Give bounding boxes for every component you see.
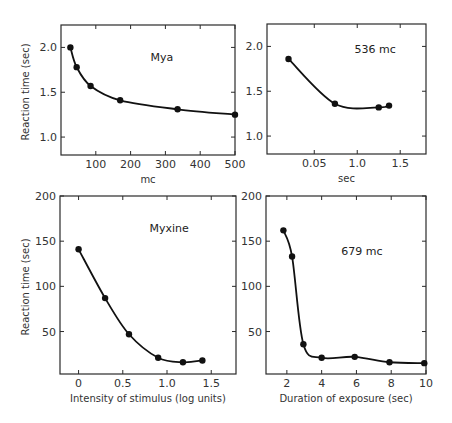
panel-annotation: 679 mc bbox=[341, 245, 382, 258]
x-tick-label: 100 bbox=[85, 158, 106, 171]
x-tick-label: 1.0 bbox=[158, 377, 176, 390]
y-tick-label: 1.5 bbox=[40, 86, 58, 99]
data-point bbox=[102, 295, 108, 301]
data-point bbox=[199, 357, 205, 363]
plot-frame bbox=[267, 24, 426, 154]
plot-frame bbox=[266, 196, 426, 374]
x-tick-label: 500 bbox=[225, 158, 246, 171]
y-tick-label: 1.0 bbox=[246, 130, 264, 143]
plot-frame bbox=[61, 25, 235, 155]
data-point bbox=[289, 253, 295, 259]
x-tick-label: 300 bbox=[155, 158, 176, 171]
y-tick-label: 150 bbox=[241, 235, 262, 248]
plot-frame bbox=[60, 196, 236, 374]
data-point bbox=[351, 354, 357, 360]
panel-myxine-intensity: 00.51.01.550100150200Intensity of stimul… bbox=[35, 190, 236, 404]
data-point bbox=[300, 341, 306, 347]
panel-mya-duration: 0.051.01.51.01.52.0sec536 mc bbox=[246, 24, 427, 184]
data-point bbox=[386, 359, 392, 365]
x-tick-label: 1.5 bbox=[202, 377, 220, 390]
panel-annotation: 536 mc bbox=[354, 43, 395, 56]
y-tick-label: 50 bbox=[248, 326, 262, 339]
x-axis-label: Intensity of stimulus (log units) bbox=[70, 393, 226, 404]
x-tick-label: 2 bbox=[283, 377, 290, 390]
x-tick-label: 200 bbox=[120, 158, 141, 171]
data-point bbox=[180, 359, 186, 365]
y-tick-label: 50 bbox=[42, 326, 56, 339]
panel-myxine-duration: 24681050100150200Duration of exposure (s… bbox=[241, 190, 433, 404]
data-point bbox=[75, 246, 81, 252]
data-point bbox=[332, 101, 338, 107]
y-tick-label: 1.5 bbox=[246, 85, 264, 98]
x-tick-label: 0.05 bbox=[302, 157, 327, 170]
y-tick-label: 200 bbox=[241, 190, 262, 203]
y-tick-label: 200 bbox=[35, 190, 56, 203]
data-point bbox=[87, 83, 93, 89]
data-point bbox=[285, 56, 291, 62]
x-tick-label: 1.5 bbox=[391, 157, 409, 170]
x-tick-label: 6 bbox=[353, 377, 360, 390]
y-tick-label: 100 bbox=[35, 280, 56, 293]
y-tick-label: 2.0 bbox=[246, 40, 264, 53]
data-point bbox=[155, 355, 161, 361]
x-tick-label: 4 bbox=[318, 377, 325, 390]
y-tick-label: 2.0 bbox=[40, 41, 58, 54]
figure: 1002003004005001.01.52.0mcMya 0.051.01.5… bbox=[0, 0, 452, 423]
data-point bbox=[174, 106, 180, 112]
x-tick-label: 0 bbox=[75, 377, 82, 390]
data-point bbox=[421, 360, 427, 366]
x-tick-label: 1.0 bbox=[348, 157, 366, 170]
data-point bbox=[280, 227, 286, 233]
panel-annotation: Myxine bbox=[149, 222, 189, 235]
data-point bbox=[67, 44, 73, 50]
data-curve bbox=[79, 249, 203, 362]
y-tick-label: 100 bbox=[241, 280, 262, 293]
data-point bbox=[386, 102, 392, 108]
data-point bbox=[232, 111, 238, 117]
x-tick-label: 8 bbox=[388, 377, 395, 390]
panel-annotation: Mya bbox=[151, 51, 174, 64]
data-point bbox=[376, 104, 382, 110]
y-axis-label-top: Reaction time (sec) bbox=[20, 43, 31, 140]
y-tick-label: 1.0 bbox=[40, 131, 58, 144]
y-tick-label: 150 bbox=[35, 235, 56, 248]
y-axis-label-bottom: Reaction time (sec) bbox=[20, 238, 31, 335]
data-point bbox=[126, 331, 132, 337]
data-point bbox=[73, 64, 79, 70]
panel-mya-intensity: 1002003004005001.01.52.0mcMya bbox=[40, 25, 246, 185]
x-tick-label: 400 bbox=[190, 158, 211, 171]
x-axis-label: mc bbox=[140, 174, 155, 185]
x-axis-label: Duration of exposure (sec) bbox=[279, 393, 412, 404]
x-tick-label: 0.5 bbox=[114, 377, 132, 390]
data-point bbox=[318, 355, 324, 361]
data-curve bbox=[288, 59, 389, 109]
data-point bbox=[117, 97, 123, 103]
x-axis-label: sec bbox=[338, 173, 355, 184]
x-tick-label: 10 bbox=[419, 377, 433, 390]
